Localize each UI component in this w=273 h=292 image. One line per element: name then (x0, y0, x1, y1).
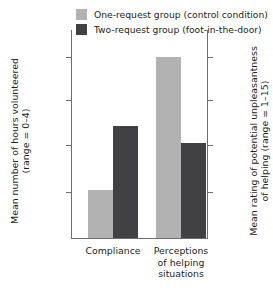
right-tick-3 (208, 192, 213, 193)
right-tick-5 (208, 100, 213, 101)
category-label-line: Perceptions (133, 245, 229, 257)
category-label-line: of helping (133, 257, 229, 269)
left-tick-0-75 (66, 145, 71, 146)
bar-perceptions-two-request (181, 143, 206, 238)
category-label-line: situations (133, 268, 229, 280)
legend-item-one-request: One-request group (control condition) (76, 7, 272, 22)
left-axis-title-line1: Mean number of hours volunteered (9, 58, 20, 224)
bar-compliance-one-request (88, 190, 113, 238)
left-tick-1-00 (66, 100, 71, 101)
plot-area: 1.251.000.750.50 6543 (71, 30, 208, 238)
left-axis-line (71, 30, 72, 238)
legend-label-one-request: One-request group (control condition) (94, 9, 268, 20)
right-axis-line (207, 30, 208, 238)
right-tick-4 (208, 145, 213, 146)
left-axis-title-line2: (range = 0–4) (20, 109, 31, 174)
legend-swatch-one-request (76, 9, 87, 20)
right-tick-6 (208, 57, 213, 58)
bottom-axis-line (71, 238, 208, 239)
bar-compliance-two-request (113, 126, 138, 238)
category-label-2: Perceptionsof helpingsituations (133, 245, 229, 280)
left-tick-0-50 (66, 192, 71, 193)
right-axis-title-line2: of helping (range = 1–15) (259, 81, 270, 202)
figure-root: One-request group (control condition) Tw… (0, 0, 273, 292)
right-axis-title: Mean rating of potential unpleasantness … (249, 36, 270, 246)
bar-perceptions-one-request (156, 57, 181, 238)
right-axis-title-line1: Mean rating of potential unpleasantness (248, 46, 259, 236)
left-axis-title: Mean number of hours volunteered (range … (10, 36, 31, 246)
left-tick-1-25 (66, 57, 71, 58)
